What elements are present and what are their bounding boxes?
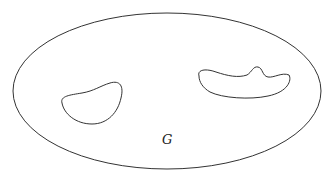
left-hole	[62, 82, 122, 124]
region-label: G	[162, 133, 172, 146]
region-diagram	[0, 0, 335, 179]
right-hole	[199, 67, 290, 98]
diagram-canvas: G	[0, 0, 335, 179]
